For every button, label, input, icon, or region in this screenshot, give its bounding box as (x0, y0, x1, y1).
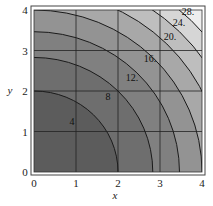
x-tick-labels: 01234 (31, 177, 205, 189)
y-axis-label: y (7, 84, 13, 96)
y-tick-label: 0 (22, 166, 28, 178)
contour-label: 8 (106, 91, 111, 102)
x-tick-label: 4 (199, 177, 205, 189)
y-tick-label: 3 (22, 45, 28, 57)
y-tick-labels: 01234 (22, 4, 28, 178)
contour-plot: 4812.16.20.24.28. 01234 01234 x y (0, 0, 213, 206)
y-tick-label: 4 (22, 4, 28, 16)
x-tick-label: 3 (157, 177, 163, 189)
contour-label: 16. (144, 53, 157, 64)
contour-label: 12. (126, 72, 139, 83)
x-tick-label: 0 (31, 177, 37, 189)
contour-label: 24. (173, 17, 186, 28)
x-tick-label: 1 (73, 177, 79, 189)
y-tick-label: 1 (22, 126, 28, 138)
x-tick-label: 2 (115, 177, 121, 189)
contour-label: 28. (182, 6, 195, 17)
contour-label: 20. (164, 31, 177, 42)
x-axis-label: x (112, 189, 118, 201)
y-tick-label: 2 (22, 85, 28, 97)
contour-label: 4 (70, 116, 75, 127)
